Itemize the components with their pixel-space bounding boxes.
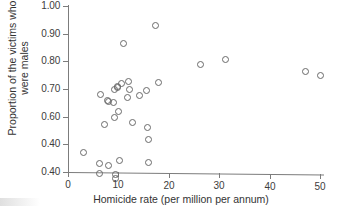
x-axis-tick-label: 20 [154,181,184,191]
x-axis-tick-label: 50 [305,182,335,192]
data-point [144,124,151,131]
data-point [105,162,112,169]
data-point [80,149,87,156]
x-axis-tick-label: 40 [255,182,285,192]
data-point [126,86,133,93]
data-point [317,72,324,79]
data-point [124,94,131,101]
data-point [118,80,125,87]
data-point [116,157,123,164]
y-axis-tick-label: 0.90 [26,29,60,39]
data-point [136,92,143,99]
x-axis-tick-labels: 01020304050 [0,180,338,194]
x-axis-tick-label: 0 [53,180,83,190]
data-point [155,79,162,86]
data-point [120,40,127,47]
x-axis-tick [320,174,321,179]
data-point [97,91,104,98]
x-axis-tick [270,174,271,179]
data-point [222,56,229,63]
data-point [152,22,159,29]
data-point [101,121,108,128]
data-point [96,160,103,167]
y-axis-tick-label: 0.40 [26,139,60,149]
data-point [115,108,122,115]
y-axis-tick-labels: 0.400.400.600.700.800.901.00 [24,0,60,180]
y-axis-tick-label: 0.80 [26,56,60,66]
data-point [125,78,132,85]
data-point [197,61,204,68]
data-point [145,159,152,166]
x-axis-tick-label: 10 [103,180,133,190]
scan-artifact [0,198,40,206]
data-point [302,68,309,75]
data-point [110,99,117,106]
data-point [143,87,150,94]
data-point [96,170,103,177]
y-axis-tick-label: 0.70 [26,84,60,94]
x-axis-tick-label: 30 [204,181,234,191]
y-axis-tick-label: 1.00 [26,1,60,11]
data-point [145,136,152,143]
plot-area [68,4,326,174]
y-axis-tick-label: 0.60 [26,112,60,122]
y-axis-title-line-1: Proportion of the victims who [6,0,18,148]
y-axis-tick-label: 0.40 [26,167,60,177]
x-axis-title: Homicide rate (per million per annum) [0,193,338,205]
data-point [129,119,136,126]
scatter-plot-figure: Proportion of the victims who were males… [0,0,338,208]
